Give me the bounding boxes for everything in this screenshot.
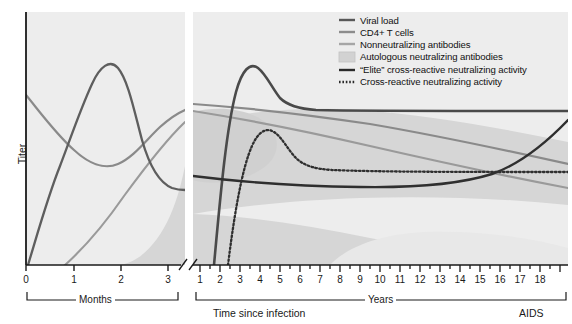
left-tick-0: 0: [16, 274, 36, 285]
left-plot-background: [26, 12, 185, 265]
right-tick-4: 4: [250, 274, 270, 285]
right-tick-7: 7: [310, 274, 330, 285]
legend-label-crossreactive: Cross-reactive neutralizing activity: [360, 76, 502, 87]
years-bracket-label: Years: [365, 294, 396, 305]
legend-label-nonneutralizing: Nonneutralizing antibodies: [360, 39, 470, 50]
left-x-ticks: [26, 265, 168, 271]
aids-label: AIDS: [519, 307, 544, 319]
left-tick-2: 2: [111, 274, 131, 285]
months-bracket-label: Months: [76, 294, 115, 305]
right-tick-12: 12: [410, 274, 430, 285]
right-tick-16: 16: [490, 274, 510, 285]
right-tick-9: 9: [350, 274, 370, 285]
right-tick-6: 6: [290, 274, 310, 285]
right-tick-14: 14: [450, 274, 470, 285]
right-tick-15: 15: [470, 274, 490, 285]
legend-marker-autologous: [339, 52, 355, 62]
time-since-infection-label: Time since infection: [213, 307, 305, 319]
legend-label-viral-load: Viral load: [360, 15, 399, 26]
acute-phase-panel: [26, 12, 187, 300]
left-tick-3: 3: [158, 274, 178, 285]
right-tick-3: 3: [230, 274, 250, 285]
right-tick-17: 17: [510, 274, 530, 285]
right-tick-2: 2: [210, 274, 230, 285]
right-tick-18: 18: [530, 274, 550, 285]
right-tick-8: 8: [330, 274, 350, 285]
right-tick-5: 5: [270, 274, 290, 285]
right-tick-11: 11: [390, 274, 410, 285]
legend-label-cd4: CD4+ T cells: [360, 27, 414, 38]
legend-label-autologous: Autologous neutralizing antibodies: [360, 51, 503, 62]
legend-label-elite: “Elite” cross-reactive neutralizing acti…: [360, 64, 527, 75]
right-tick-10: 10: [370, 274, 390, 285]
right-x-ticks: [200, 265, 560, 272]
y-axis-label: Titer: [16, 124, 28, 184]
right-tick-13: 13: [430, 274, 450, 285]
left-tick-1: 1: [64, 274, 84, 285]
right-tick-1: 1: [190, 274, 210, 285]
